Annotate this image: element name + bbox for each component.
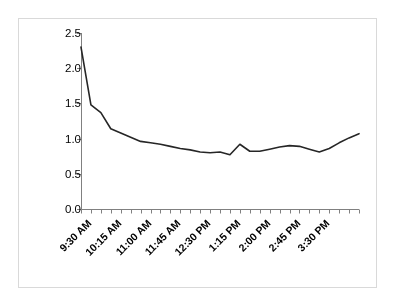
chart-figure-frame: Relative Volatility Over Day 0.00.51.01.…: [18, 18, 377, 288]
line-chart-plot: [19, 19, 378, 289]
y-axis-title: Relative Volatility Over Day: [17, 0, 39, 19]
